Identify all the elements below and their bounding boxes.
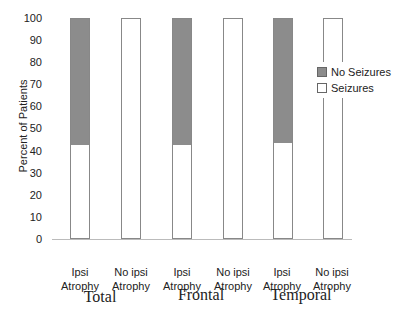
legend: No Seizures Seizures [315, 62, 393, 98]
bar [172, 18, 192, 239]
y-tick: 100 [20, 12, 42, 24]
y-tick: 40 [20, 145, 42, 157]
bar [121, 18, 141, 239]
y-tick: 60 [20, 100, 42, 112]
y-tick: 90 [20, 34, 42, 46]
bar-segment-no-seizures [173, 19, 191, 145]
group-label: Temporal [251, 286, 351, 304]
y-tick: 50 [20, 122, 42, 134]
group-label: Frontal [151, 286, 251, 304]
y-tick: 20 [20, 189, 42, 201]
bar [70, 18, 90, 239]
seizures-swatch-icon [317, 83, 327, 93]
legend-item: No Seizures [317, 64, 391, 80]
y-tick: 80 [20, 56, 42, 68]
group-label: Total [50, 288, 150, 306]
bar-segment-no-seizures [274, 19, 292, 143]
legend-item: Seizures [317, 80, 391, 96]
bar [223, 18, 243, 239]
y-tick: 10 [20, 211, 42, 223]
y-tick: 0 [20, 233, 42, 245]
y-tick: 70 [20, 78, 42, 90]
no-seizures-swatch-icon [317, 67, 327, 77]
bar-segment-no-seizures [71, 19, 89, 145]
bar [273, 18, 293, 239]
x-axis-line [52, 239, 352, 240]
bar [323, 18, 343, 239]
y-tick: 30 [20, 167, 42, 179]
